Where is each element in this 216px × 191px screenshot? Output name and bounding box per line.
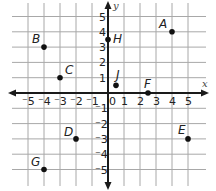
x-tick-label: 4 [169,95,176,108]
y-tick-label: 5 [99,11,106,24]
x-tick-label: ⁻4 [38,95,51,108]
y-tick-label: ⁻3 [95,133,108,146]
x-tick-label: ⁻5 [22,95,35,108]
y-tick-label: 3 [99,41,106,54]
point-label-g: G [31,155,40,169]
point-b [41,44,47,50]
point-a [169,29,175,35]
y-axis-label: y [112,0,119,11]
y-axis-down-arrow-icon [105,182,112,190]
point-d [73,136,79,142]
y-tick-label: 1 [99,72,106,85]
x-axis-left-arrow-icon [8,90,16,97]
x-tick-label: 1 [121,95,128,108]
x-tick-label: 5 [185,95,192,108]
x-tick-label: 3 [153,95,160,108]
origin-label: 0 [109,95,116,108]
point-label-h: H [113,32,122,46]
y-tick-label: ⁻4 [95,148,108,161]
point-e [185,136,191,142]
x-tick-label: ⁻2 [70,95,83,108]
coordinate-plane: xy ⁻5⁻4⁻3⁻2⁻112345054321⁻1⁻2⁻3⁻4⁻5 ABCDE… [0,0,216,191]
point-j [113,83,119,89]
x-tick-label: ⁻3 [54,95,67,108]
y-tick-label: ⁻1 [95,102,108,115]
point-label-d: D [64,125,73,139]
point-label-f: F [144,77,152,91]
point-f [145,90,151,96]
x-tick-label: 2 [137,95,144,108]
point-label-j: J [114,68,120,82]
point-label-e: E [178,123,186,137]
point-label-c: C [65,63,74,77]
y-tick-label: ⁻2 [95,118,108,131]
point-c [57,75,63,81]
x-axis-right-arrow-icon [201,90,209,97]
point-h [105,37,111,43]
y-tick-label: ⁻5 [95,164,108,177]
y-axis-up-arrow-icon [105,1,112,9]
point-label-a: A [158,17,167,31]
point-label-b: B [32,32,40,46]
point-g [41,167,47,173]
y-tick-label: 4 [99,26,106,39]
x-axis-label: x [202,78,208,89]
y-tick-label: 2 [99,56,106,69]
